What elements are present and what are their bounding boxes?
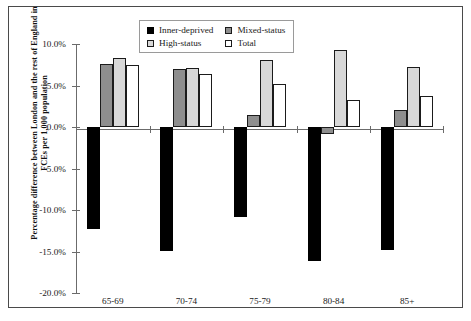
bar-mixed-status[interactable] — [100, 64, 113, 127]
y-axis-tick-mark — [72, 293, 80, 294]
bar-high-status[interactable] — [113, 58, 126, 127]
bar-groups — [76, 44, 444, 293]
y-axis-tick-label: 0.0% — [20, 122, 66, 132]
bar-total[interactable] — [126, 65, 139, 127]
bar-mixed-status[interactable] — [394, 110, 407, 127]
legend-swatch-icon — [225, 40, 232, 47]
y-axis-tick-label: -5.0% — [20, 164, 66, 174]
y-axis-tick-label: -15.0% — [20, 247, 66, 257]
bar-inner-deprived[interactable] — [160, 127, 173, 251]
bar-inner-deprived[interactable] — [308, 127, 321, 261]
bar-group — [381, 44, 433, 293]
legend-item-mixed-status[interactable]: Mixed-status — [225, 25, 285, 35]
bar-mixed-status[interactable] — [247, 115, 260, 127]
x-axis-tick-label: 65-69 — [102, 296, 123, 306]
bar-high-status[interactable] — [334, 50, 347, 127]
bar-mixed-status[interactable] — [321, 127, 334, 134]
x-axis-tick-label: 85+ — [400, 296, 414, 306]
y-axis-tick-label: 5.0% — [20, 81, 66, 91]
bar-total[interactable] — [347, 100, 360, 127]
legend-swatch-icon — [147, 27, 154, 34]
legend-swatch-icon — [225, 27, 232, 34]
legend-item-high-status[interactable]: High-status — [147, 38, 213, 48]
x-axis-tick-label: 70-74 — [176, 296, 197, 306]
chart-figure: Percentage difference between London and… — [0, 0, 471, 321]
x-axis-tick-labels: 65-6970-7475-7980-8485+ — [76, 296, 444, 312]
bar-high-status[interactable] — [260, 60, 273, 127]
bar-mixed-status[interactable] — [173, 69, 186, 127]
bar-total[interactable] — [199, 74, 212, 127]
legend-label: Total — [237, 38, 256, 48]
legend-label: High-status — [159, 38, 201, 48]
bar-inner-deprived[interactable] — [381, 127, 394, 250]
bar-inner-deprived[interactable] — [87, 127, 100, 229]
bar-group — [160, 44, 212, 293]
bar-total[interactable] — [273, 84, 286, 127]
x-axis-tick-label: 75-79 — [249, 296, 270, 306]
y-axis-tick-label: -20.0% — [20, 288, 66, 298]
legend-label: Mixed-status — [237, 25, 285, 35]
y-axis-tick-label: 10.0% — [20, 39, 66, 49]
plot-area — [76, 44, 444, 293]
bar-inner-deprived[interactable] — [234, 127, 247, 217]
x-axis-tick-label: 80-84 — [323, 296, 344, 306]
legend-item-inner-deprived[interactable]: Inner-deprived — [147, 25, 213, 35]
legend-label: Inner-deprived — [159, 25, 213, 35]
y-axis-tick-labels: 10.0%5.0%0.0%-5.0%-10.0%-15.0%-20.0% — [20, 0, 66, 321]
chart-legend: Inner-deprivedMixed-statusHigh-statusTot… — [139, 20, 294, 53]
bar-group — [87, 44, 139, 293]
bar-total[interactable] — [420, 96, 433, 127]
bar-high-status[interactable] — [407, 67, 420, 127]
bar-group — [308, 44, 360, 293]
bar-group — [234, 44, 286, 293]
y-axis-tick-label: -10.0% — [20, 205, 66, 215]
legend-item-total[interactable]: Total — [225, 38, 285, 48]
bar-high-status[interactable] — [186, 68, 199, 127]
legend-swatch-icon — [147, 40, 154, 47]
